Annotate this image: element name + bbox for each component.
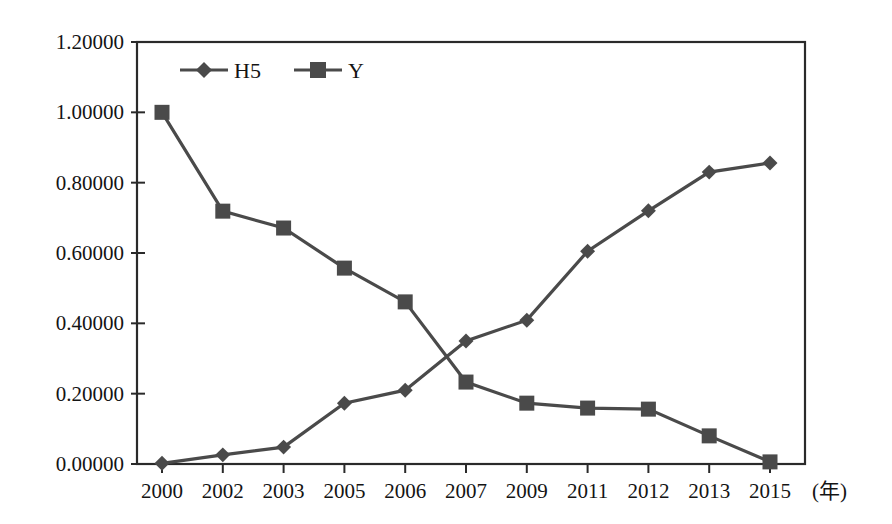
x-axis-tick-label: 2011 xyxy=(567,479,608,503)
x-axis-tick-label: 2003 xyxy=(263,479,305,503)
y-axis-tick-label: 0.00000 xyxy=(56,452,124,476)
x-axis-tick-label: 2012 xyxy=(627,479,669,503)
series-y xyxy=(155,105,778,470)
chart-canvas: 0.000000.200000.400000.600000.800001.000… xyxy=(0,0,892,524)
y-axis-tick-labels: 0.000000.200000.400000.600000.800001.000… xyxy=(56,30,124,476)
y-axis-tick-label: 1.00000 xyxy=(56,100,124,124)
x-axis-tick-marks xyxy=(162,464,770,473)
x-axis-tick-label: 2013 xyxy=(688,479,730,503)
data-point-square-marker xyxy=(519,396,534,411)
x-axis-tick-label: 2006 xyxy=(384,479,426,503)
data-point-diamond-marker xyxy=(702,165,717,180)
data-point-square-marker xyxy=(337,261,352,276)
data-point-diamond-marker xyxy=(215,447,230,462)
data-point-square-marker xyxy=(641,402,656,417)
x-axis-tick-label: 2005 xyxy=(323,479,365,503)
x-axis-unit-label: (年) xyxy=(812,479,847,503)
series-line-y xyxy=(162,112,770,462)
line-chart: 0.000000.200000.400000.600000.800001.000… xyxy=(0,0,892,524)
data-point-square-marker xyxy=(398,294,413,309)
x-axis-tick-labels: 2000200220032005200620072009201120122013… xyxy=(141,479,791,503)
series-layer xyxy=(155,105,778,471)
data-point-square-marker xyxy=(155,105,170,120)
legend-label-y: Y xyxy=(348,58,364,83)
chart-legend: H5Y xyxy=(180,58,364,83)
x-axis-tick-label: 2002 xyxy=(202,479,244,503)
legend-entry-y: Y xyxy=(294,58,364,83)
y-axis-tick-label: 0.60000 xyxy=(56,241,124,265)
x-axis-tick-label: 2000 xyxy=(141,479,183,503)
y-axis-tick-label: 0.20000 xyxy=(56,382,124,406)
data-point-diamond-marker xyxy=(155,456,170,471)
data-point-square-marker xyxy=(459,375,474,390)
data-point-square-marker xyxy=(310,62,326,78)
y-axis-tick-label: 0.80000 xyxy=(56,171,124,195)
plot-frame xyxy=(137,42,805,464)
data-point-square-marker xyxy=(580,401,595,416)
data-point-diamond-marker xyxy=(196,62,212,78)
series-line-h5 xyxy=(162,163,770,463)
data-point-square-marker xyxy=(702,428,717,443)
data-point-square-marker xyxy=(276,221,291,236)
data-point-diamond-marker xyxy=(763,155,778,170)
data-point-square-marker xyxy=(763,454,778,469)
x-axis-tick-label: 2015 xyxy=(749,479,791,503)
x-axis-tick-label: 2009 xyxy=(506,479,548,503)
legend-label-h5: H5 xyxy=(234,58,261,83)
legend-entry-h5: H5 xyxy=(180,58,261,83)
y-axis-tick-label: 0.40000 xyxy=(56,311,124,335)
y-axis-tick-label: 1.20000 xyxy=(56,30,124,54)
data-point-square-marker xyxy=(215,204,230,219)
x-axis-tick-label: 2007 xyxy=(445,479,487,503)
